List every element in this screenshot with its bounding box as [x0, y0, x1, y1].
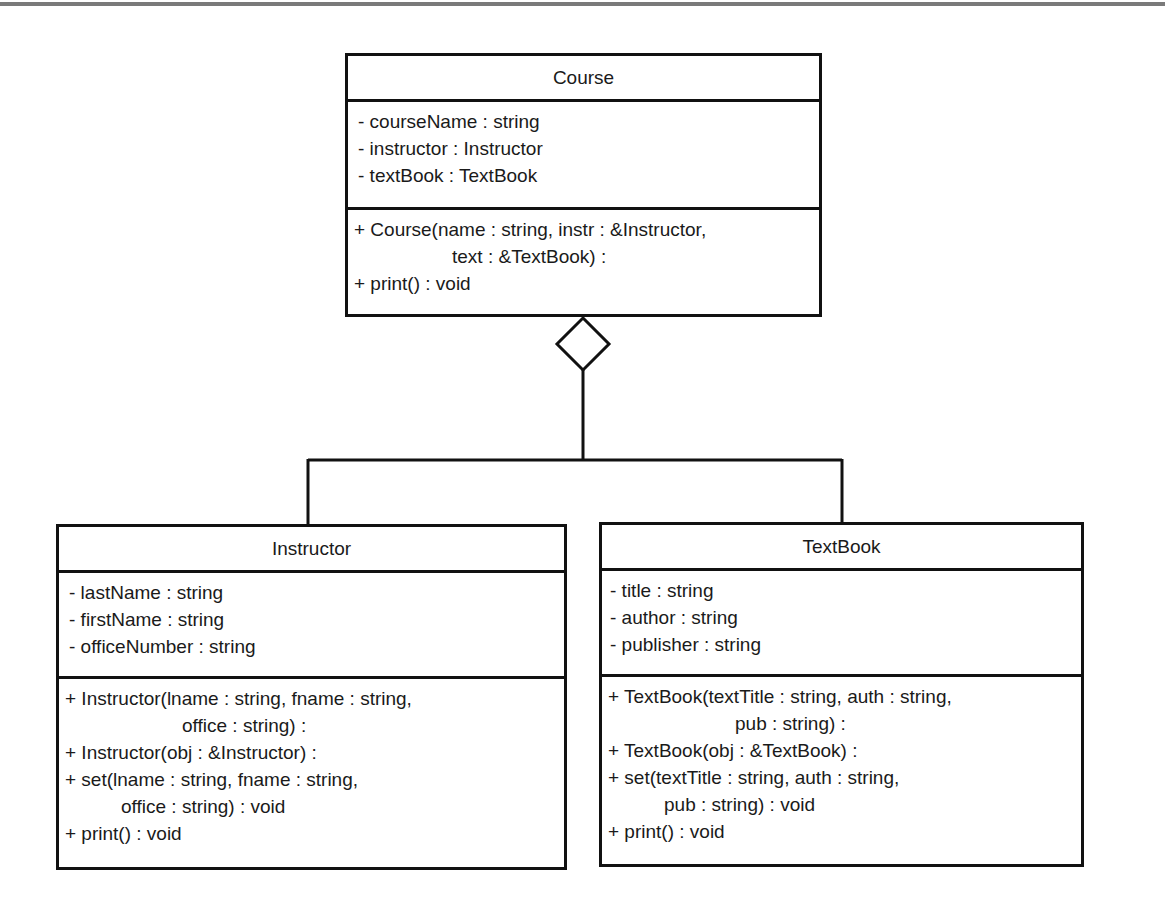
method-continuation: pub : string) :: [608, 710, 1081, 737]
attribute: - courseName : string: [358, 108, 819, 135]
method: + Instructor(obj : &Instructor) :: [65, 739, 564, 766]
method: + TextBook(obj : &TextBook) :: [608, 737, 1081, 764]
class-instructor: Instructor - lastName : string - firstNa…: [56, 524, 567, 870]
attributes-section: - courseName : string - instructor : Ins…: [348, 102, 819, 210]
attributes-section: - title : string - author : string - pub…: [602, 571, 1081, 677]
methods-section: + Course(name : string, instr : &Instruc…: [348, 210, 819, 297]
method-continuation: pub : string) : void: [608, 791, 1081, 818]
method: + set(lname : string, fname : string,: [65, 766, 564, 793]
attribute: - textBook : TextBook: [358, 162, 819, 189]
attribute: - officeNumber : string: [69, 633, 564, 660]
method-continuation: office : string) : void: [65, 793, 564, 820]
attribute: - publisher : string: [610, 631, 1081, 658]
class-textbook: TextBook - title : string - author : str…: [599, 522, 1084, 867]
method: + set(textTitle : string, auth : string,: [608, 764, 1081, 791]
attribute: - lastName : string: [69, 579, 564, 606]
method: + Course(name : string, instr : &Instruc…: [354, 216, 819, 243]
method: + Instructor(lname : string, fname : str…: [65, 685, 564, 712]
aggregation-diamond-icon: [557, 318, 609, 370]
class-name: TextBook: [602, 525, 1081, 571]
method: + TextBook(textTitle : string, auth : st…: [608, 683, 1081, 710]
method: + print() : void: [65, 820, 564, 847]
class-name: Course: [348, 56, 819, 102]
class-name: Instructor: [59, 527, 564, 573]
method-continuation: office : string) :: [65, 712, 564, 739]
class-course: Course - courseName : string - instructo…: [345, 53, 822, 317]
methods-section: + TextBook(textTitle : string, auth : st…: [602, 677, 1081, 845]
attribute: - title : string: [610, 577, 1081, 604]
methods-section: + Instructor(lname : string, fname : str…: [59, 679, 564, 847]
method-continuation: text : &TextBook) :: [354, 243, 819, 270]
method: + print() : void: [354, 270, 819, 297]
attribute: - instructor : Instructor: [358, 135, 819, 162]
attribute: - author : string: [610, 604, 1081, 631]
method: + print() : void: [608, 818, 1081, 845]
attributes-section: - lastName : string - firstName : string…: [59, 573, 564, 679]
attribute: - firstName : string: [69, 606, 564, 633]
